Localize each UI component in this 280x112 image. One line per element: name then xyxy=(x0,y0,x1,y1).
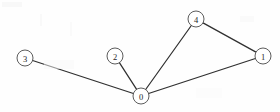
graph-node-1[interactable]: 1 xyxy=(255,48,271,64)
graph-canvas: 01234 xyxy=(0,0,280,112)
graph-node-2[interactable]: 2 xyxy=(107,48,123,64)
graph-node-3[interactable]: 3 xyxy=(17,50,33,66)
graph-node-4[interactable]: 4 xyxy=(188,11,204,27)
graph-node-0[interactable]: 0 xyxy=(133,88,149,104)
node-label-1: 1 xyxy=(261,52,265,62)
node-label-2: 2 xyxy=(113,52,117,62)
nodes-layer: 01234 xyxy=(17,11,271,104)
edges-layer xyxy=(33,23,256,94)
graph-edge-3-0 xyxy=(33,60,134,93)
graph-figure: 01234 xyxy=(0,0,280,112)
graph-edge-2-0 xyxy=(119,63,136,90)
graph-edge-4-1 xyxy=(203,23,256,52)
node-label-0: 0 xyxy=(139,92,143,102)
node-label-3: 3 xyxy=(23,54,27,64)
graph-edge-4-0 xyxy=(146,26,192,90)
